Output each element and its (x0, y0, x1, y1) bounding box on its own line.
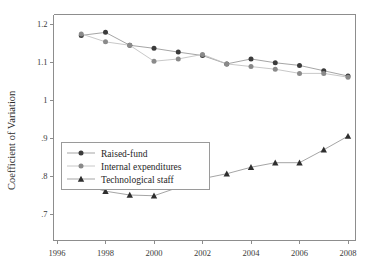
data-point-circle (297, 63, 302, 68)
x-tick-label: 2002 (194, 248, 211, 258)
data-point-circle (273, 60, 278, 65)
data-point-circle (103, 39, 108, 44)
data-point-circle (152, 46, 157, 51)
legend-label: Technological staff (101, 175, 175, 185)
data-point-circle (103, 30, 108, 35)
line-chart: Raised-fundInternal expendituresTechnolo… (0, 0, 369, 280)
x-tick-label: 1996 (49, 248, 66, 258)
series-1 (79, 30, 351, 79)
series-2 (79, 31, 351, 79)
data-point-triangle (345, 133, 351, 139)
data-point-circle (297, 71, 302, 76)
data-point-circle (176, 50, 181, 55)
y-axis-title: Coefficient of Variation (6, 90, 17, 190)
data-point-circle (176, 56, 181, 61)
y-tick-label: 1.1 (37, 57, 48, 67)
x-tick-label: 1998 (97, 248, 114, 258)
data-point-circle (249, 56, 254, 61)
y-tick-label: 1.2 (37, 19, 48, 29)
x-tick-label: 2006 (291, 248, 308, 258)
y-tick-label: 1 (43, 95, 47, 105)
data-point-circle (321, 71, 326, 76)
chart-axes (50, 15, 356, 245)
legend-label: Internal expenditures (101, 162, 182, 172)
data-point-circle (152, 59, 157, 64)
data-point-circle (79, 31, 84, 36)
y-tick-label: .9 (41, 133, 47, 143)
legend-label: Raised-fund (101, 149, 148, 159)
x-tick-label: 2004 (243, 248, 261, 258)
data-point-circle (273, 67, 278, 72)
data-point-circle (249, 64, 254, 69)
x-tick-label: 2008 (340, 248, 357, 258)
data-point-circle (224, 61, 229, 66)
series-line (81, 32, 348, 76)
data-point-circle (127, 43, 132, 48)
data-point-circle (346, 75, 351, 80)
chart-labels: 1.21.11.9.8.7199619982000200220042006200… (6, 19, 357, 258)
x-tick-label: 2000 (146, 248, 163, 258)
chart-container: Raised-fundInternal expendituresTechnolo… (0, 0, 369, 280)
y-tick-label: .8 (41, 171, 47, 181)
chart-legend: Raised-fundInternal expendituresTechnolo… (61, 142, 209, 189)
y-tick-label: .7 (41, 209, 47, 219)
data-point-circle (79, 151, 84, 156)
data-point-triangle (321, 147, 327, 153)
data-point-circle (200, 52, 205, 57)
data-point-circle (79, 164, 84, 169)
